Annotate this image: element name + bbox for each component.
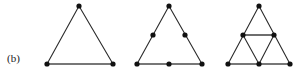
edge-midline-right-to-basemid [259, 35, 274, 64]
triangle-order-0 [44, 3, 115, 66]
vertex-dot-base-midpoint [256, 61, 261, 66]
figure-container: (b) [0, 0, 299, 78]
vertex-dot-bottom-right [110, 61, 115, 66]
triangle-order-1-midpoints [134, 3, 204, 66]
vertex-dot-apex [166, 3, 171, 8]
vertex-dot-base-midpoint [166, 61, 171, 66]
vertex-dot-bottom-left [134, 61, 139, 66]
vertex-dot-bottom-left [225, 61, 230, 66]
edge-left-side [47, 6, 79, 64]
edge-midline-left-to-basemid [243, 35, 259, 64]
vertex-dot-apex [76, 3, 81, 8]
vertex-dot-right-midpoint [182, 32, 187, 37]
vertex-dot-bottom-left [44, 61, 49, 66]
vertex-dot-right-midpoint [271, 32, 276, 37]
edge-right-side [79, 6, 113, 64]
vertex-dot-bottom-right [287, 61, 292, 66]
vertex-dot-left-midpoint [240, 32, 245, 37]
vertex-dot-bottom-right [199, 61, 204, 66]
vertex-dot-apex [256, 3, 261, 8]
vertex-dot-left-midpoint [150, 32, 155, 37]
triangle-figure-canvas [0, 0, 299, 78]
triangle-order-2-subdivided [225, 3, 292, 66]
